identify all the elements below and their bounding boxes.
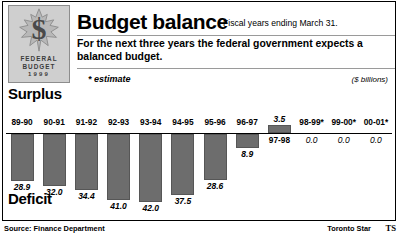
divider-bottom: [77, 68, 395, 69]
surplus-bar: [268, 125, 291, 133]
bar-value-label: 37.5: [163, 196, 203, 206]
year-label: 98-99*: [296, 117, 328, 127]
divider-top: [77, 35, 395, 36]
infographic-page: $ FEDERAL BUDGET 1999 Budget balance Fis…: [0, 0, 400, 236]
deficit-bar: [236, 134, 259, 148]
year-label: 99-00*: [328, 117, 360, 127]
deficit-bar: [43, 134, 66, 186]
federal-budget-logo: $ FEDERAL BUDGET 1999: [8, 5, 72, 85]
bar-value-label: 0.0: [356, 135, 396, 145]
bar-value-label: 34.4: [66, 191, 106, 201]
year-label: 92-93: [103, 117, 135, 127]
units-label: ($ billions): [352, 75, 388, 84]
deck-text: For the next three years the federal gov…: [77, 38, 397, 63]
deficit-bar: [107, 134, 130, 200]
chart-column: 98-99*0.0: [296, 86, 328, 210]
title-row: Budget balance Fiscal years ending March…: [77, 10, 395, 34]
chart-column: 97-983.5: [263, 86, 295, 210]
deficit-bar: [139, 134, 162, 202]
bar-value-label: 8.9: [227, 149, 267, 159]
footer: Source: Finance Department Toronto Star …: [3, 224, 397, 234]
bar-value-label: 3.5: [259, 114, 299, 124]
year-label: 93-94: [135, 117, 167, 127]
header: $ FEDERAL BUDGET 1999 Budget balance Fis…: [3, 2, 395, 72]
year-label: 94-95: [167, 117, 199, 127]
deficit-bar: [171, 134, 194, 195]
estimate-note: * estimate: [88, 74, 131, 84]
deficit-bar: [75, 134, 98, 190]
chart-column: 00-01*0.0: [360, 86, 392, 210]
logo-line-1: FEDERAL: [8, 55, 70, 62]
bar-chart: Surplus Deficit 89-9028.990-9132.091-923…: [3, 86, 395, 220]
chart-column: 93-9442.0: [135, 86, 167, 210]
title-note: Fiscal years ending March 31.: [223, 18, 338, 28]
page-title: Budget balance: [77, 10, 228, 34]
year-label: 00-01*: [360, 117, 392, 127]
plot-area: 89-9028.990-9132.091-9234.492-9341.093-9…: [6, 86, 392, 210]
year-label: 89-90: [6, 117, 38, 127]
year-label: 90-91: [38, 117, 70, 127]
chart-column: 91-9234.4: [70, 86, 102, 210]
credit-logo: TS: [385, 223, 396, 233]
year-label: 95-96: [199, 117, 231, 127]
credit-text: Toronto Star: [327, 224, 371, 233]
chart-column: 99-00*0.0: [328, 86, 360, 210]
chart-column: 96-978.9: [231, 86, 263, 210]
bar-value-label: 28.6: [195, 181, 235, 191]
chart-column: 92-9341.0: [103, 86, 135, 210]
chart-column: 94-9537.5: [167, 86, 199, 210]
source-text: Source: Finance Department: [4, 224, 105, 233]
dollar-sign-icon: $: [8, 7, 70, 51]
logo-line-2: BUDGET: [8, 63, 70, 70]
chart-column: 95-9628.6: [199, 86, 231, 210]
logo-line-3: 1999: [8, 71, 70, 77]
year-label: 91-92: [70, 117, 102, 127]
deficit-bar: [204, 134, 227, 180]
deficit-bar: [11, 134, 34, 181]
